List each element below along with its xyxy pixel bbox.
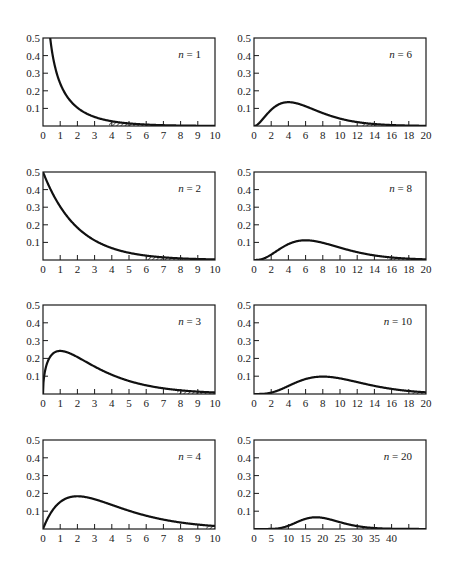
degrees-of-freedom-label: n = 4	[178, 450, 201, 462]
chart-panel-n3: 0123456789100.10.20.30.40.5n = 3	[26, 299, 221, 409]
degrees-of-freedom-label: n = 6	[389, 48, 412, 60]
x-tick-label: 10	[335, 129, 347, 141]
y-tick-label: 0.3	[237, 470, 251, 482]
x-tick-label: 8	[178, 129, 184, 141]
y-tick-label: 0.4	[237, 184, 251, 196]
x-tick-label: 3	[92, 263, 98, 275]
y-tick-label: 0.2	[237, 85, 251, 97]
y-tick-label: 0.4	[26, 317, 40, 329]
n-value: = 8	[395, 182, 413, 194]
x-tick-label: 20	[421, 397, 433, 409]
x-tick-label: 10	[210, 129, 222, 141]
x-tick-label: 8	[178, 397, 184, 409]
degrees-of-freedom-label: n = 1	[178, 48, 201, 60]
x-tick-label: 4	[286, 263, 292, 275]
n-value: = 1	[184, 48, 201, 60]
x-tick-label: 1	[57, 397, 63, 409]
x-tick-label: 8	[320, 129, 326, 141]
density-curve	[43, 351, 215, 394]
y-tick-label: 0.4	[26, 50, 40, 62]
y-tick-label: 0.1	[237, 370, 251, 382]
y-tick-label: 0.3	[26, 201, 40, 213]
chi-square-density-figure: 0123456789100.10.20.30.40.5n = 102468101…	[0, 0, 455, 573]
n-value: = 6	[395, 48, 413, 60]
y-tick-label: 0.5	[26, 166, 40, 178]
x-tick-label: 12	[352, 263, 363, 275]
y-tick-label: 0.1	[237, 102, 251, 114]
y-tick-label: 0.5	[237, 32, 251, 44]
x-tick-label: 20	[421, 129, 433, 141]
x-tick-label: 10	[335, 397, 347, 409]
x-tick-label: 18	[403, 129, 415, 141]
x-tick-label: 2	[75, 397, 81, 409]
x-tick-label: 2	[268, 263, 274, 275]
x-tick-label: 6	[303, 263, 309, 275]
x-tick-label: 0	[251, 532, 257, 544]
x-tick-label: 8	[178, 532, 184, 544]
y-tick-label: 0.2	[26, 487, 40, 499]
x-tick-label: 4	[109, 263, 115, 275]
y-tick-label: 0.1	[237, 236, 251, 248]
x-tick-label: 0	[40, 532, 46, 544]
y-tick-label: 0.3	[237, 335, 251, 347]
x-tick-label: 6	[143, 532, 149, 544]
x-tick-label: 2	[75, 263, 81, 275]
x-tick-label: 10	[210, 397, 222, 409]
y-tick-label: 0.5	[26, 299, 40, 311]
y-tick-label: 0.5	[26, 32, 40, 44]
y-tick-label: 0.1	[237, 505, 251, 517]
y-tick-label: 0.1	[26, 102, 40, 114]
y-tick-label: 0.2	[26, 352, 40, 364]
n-value: = 4	[184, 450, 202, 462]
x-tick-label: 40	[386, 532, 398, 544]
x-tick-label: 12	[352, 129, 363, 141]
x-tick-label: 0	[251, 263, 257, 275]
x-tick-label: 2	[268, 129, 274, 141]
y-tick-label: 0.2	[237, 219, 251, 231]
y-tick-label: 0.2	[237, 352, 251, 364]
y-tick-label: 0.2	[237, 487, 251, 499]
x-tick-label: 30	[352, 532, 364, 544]
x-tick-label: 3	[92, 532, 98, 544]
y-tick-label: 0.2	[26, 85, 40, 97]
degrees-of-freedom-label: n = 2	[178, 182, 201, 194]
x-tick-label: 5	[126, 397, 132, 409]
x-tick-label: 10	[335, 263, 347, 275]
y-tick-label: 0.4	[237, 317, 251, 329]
x-tick-label: 14	[369, 397, 381, 409]
x-tick-label: 7	[161, 263, 167, 275]
n-value: = 3	[184, 315, 202, 327]
x-tick-label: 18	[403, 263, 415, 275]
chart-panel-n6: 024681012141618200.10.20.30.40.5n = 6	[237, 32, 432, 141]
y-tick-label: 0.4	[237, 452, 251, 464]
degrees-of-freedom-label: n = 10	[384, 315, 413, 327]
x-tick-label: 10	[283, 532, 295, 544]
y-tick-label: 0.3	[26, 470, 40, 482]
x-tick-label: 2	[75, 129, 81, 141]
x-tick-label: 7	[161, 532, 167, 544]
x-tick-label: 8	[178, 263, 184, 275]
y-tick-label: 0.3	[26, 335, 40, 347]
x-tick-label: 16	[386, 263, 398, 275]
x-tick-label: 20	[421, 263, 433, 275]
x-tick-label: 18	[403, 397, 415, 409]
x-tick-label: 0	[251, 129, 257, 141]
y-tick-label: 0.4	[237, 50, 251, 62]
degrees-of-freedom-label: n = 8	[389, 182, 412, 194]
x-tick-label: 2	[268, 397, 274, 409]
chart-panel-n20: 05101520253035400.10.20.30.40.5n = 20	[237, 434, 426, 544]
y-tick-label: 0.1	[26, 505, 40, 517]
y-tick-label: 0.4	[26, 184, 40, 196]
x-tick-label: 0	[40, 397, 46, 409]
chart-panel-n8: 024681012141618200.10.20.30.40.5n = 8	[237, 166, 432, 275]
x-tick-label: 16	[386, 129, 398, 141]
x-tick-label: 7	[161, 129, 167, 141]
n-value: = 10	[389, 315, 412, 327]
n-value: = 20	[389, 450, 412, 462]
x-tick-label: 2	[75, 532, 81, 544]
x-tick-label: 35	[369, 532, 381, 544]
x-tick-label: 9	[195, 129, 201, 141]
chart-panel-n4: 0123456789100.10.20.30.40.5n = 4	[26, 434, 221, 544]
y-tick-label: 0.1	[26, 370, 40, 382]
y-tick-label: 0.5	[26, 434, 40, 446]
